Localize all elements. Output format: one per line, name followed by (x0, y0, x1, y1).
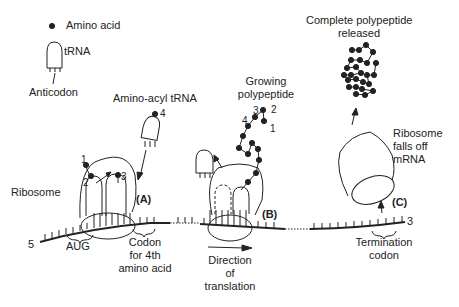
aminoacyl-trna-label: Amino-acyl tRNA (113, 92, 197, 105)
gp-number-2: 2 (271, 103, 277, 116)
mrna-three-prime: 3 (407, 215, 413, 228)
growing-polypeptide (236, 107, 266, 184)
gp-number-4: 4 (242, 114, 248, 127)
ribosome-label: Ribosome (11, 186, 61, 199)
gp-number-1: 1 (270, 122, 276, 135)
aug-label: AUG (66, 240, 90, 253)
aa-number-1: 1 (81, 153, 87, 166)
direction-label: Direction of translation (200, 254, 260, 293)
stage-c-label: (C) (392, 196, 407, 209)
termination-codon-label: Termination codon (352, 236, 416, 262)
gp-number-3: 3 (253, 104, 259, 117)
mrna-five-prime: 5 (28, 238, 34, 251)
trna-b-site (233, 187, 249, 214)
ribosome-falls-off-label: Ribosome falls off mRNA (393, 127, 443, 166)
aa-number-4: 4 (160, 107, 166, 120)
stage-a-label: (A) (136, 193, 151, 206)
legend-trna-label: tRNA (64, 45, 90, 58)
complete-polypeptide (341, 42, 378, 97)
legend-anticodon-label: Anticodon (29, 86, 78, 99)
ribosome-c-large (339, 132, 394, 196)
legend-amino-acid-dot (49, 23, 54, 28)
trna-b-empty (215, 185, 231, 214)
stage-b-label: (B) (262, 208, 277, 221)
ribosome-c-small (348, 170, 398, 209)
growing-polypeptide-label: Growing polypeptide (235, 75, 297, 101)
aa-number-2: 2 (83, 176, 89, 189)
codon-4th-label: Codon for 4th amino acid (122, 236, 168, 275)
legend-amino-acid-label: Amino acid (66, 19, 120, 32)
trna-b-leaving (196, 150, 213, 173)
ribosome-b-small (208, 215, 252, 241)
aa-number-3: 3 (121, 170, 127, 183)
aminoacyl-trna (141, 115, 161, 141)
complete-polypeptide-label: Complete polypeptide released (306, 14, 412, 40)
legend-trna-shape (47, 42, 62, 68)
